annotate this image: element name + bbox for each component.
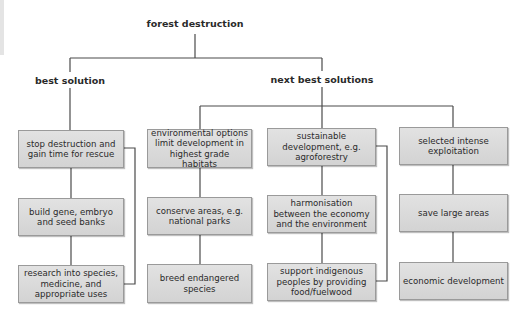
col3-bracket: [376, 146, 387, 281]
node-gene-banks: build gene, embryo and seed banks: [18, 198, 124, 236]
node-selected-exploitation: selected intense exploitation: [399, 127, 508, 165]
branch-next-best-label: next best solutions: [271, 74, 374, 85]
node-harmonisation: harmonisation between the economy and th…: [267, 195, 376, 233]
branch-best-label: best solution: [35, 75, 105, 86]
node-economic-development: economic development: [399, 262, 508, 300]
node-breed-endangered: breed endangered species: [147, 264, 252, 303]
col1-bracket: [124, 148, 135, 284]
node-save-large-areas: save large areas: [399, 194, 508, 232]
root-label: forest destruction: [147, 18, 244, 29]
node-research: research into species, medicine, and app…: [18, 265, 124, 303]
node-environmental-options: environmental options limit development …: [147, 129, 252, 168]
node-sustainable-development: sustainable development, e.g. agroforest…: [267, 128, 376, 166]
node-conserve-areas: conserve areas, e.g. national parks: [147, 197, 252, 235]
node-support-indigenous: support indigenous peoples by providing …: [267, 263, 376, 301]
node-stop-destruction: stop destruction and gain time for rescu…: [18, 130, 124, 168]
